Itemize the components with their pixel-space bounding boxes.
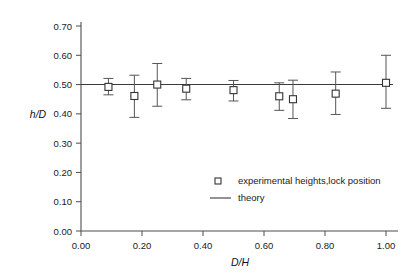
data-point	[381, 55, 391, 108]
data-point	[103, 78, 113, 94]
data-point	[181, 78, 191, 99]
x-tick-label: 0.80	[316, 240, 335, 251]
legend-label-theory: theory	[238, 192, 265, 203]
legend-label-experimental: experimental heights,lock position	[238, 175, 381, 186]
legend-marker-experimental	[215, 178, 221, 184]
legend: experimental heights,lock position theor…	[210, 175, 381, 203]
y-tick-label: 0.20	[54, 167, 73, 178]
y-tick-label: 0.30	[54, 138, 73, 149]
y-tick-label: 0.60	[54, 50, 73, 61]
y-axis-title: h/D	[30, 108, 47, 120]
data-point	[274, 83, 284, 111]
data-point-group	[103, 55, 391, 118]
figure-container: 0.000.100.200.300.400.500.600.70 0.000.2…	[0, 0, 410, 278]
y-tick-label: 0.40	[54, 108, 73, 119]
data-point	[229, 80, 239, 101]
x-axis-tick-group: 0.000.200.400.600.801.00	[72, 231, 396, 251]
x-tick-label: 0.00	[72, 240, 91, 251]
x-tick-label: 0.60	[255, 240, 274, 251]
x-tick-label: 1.00	[377, 240, 396, 251]
x-tick-label: 0.40	[194, 240, 213, 251]
data-point	[288, 80, 298, 118]
y-tick-label: 0.10	[54, 196, 73, 207]
y-tick-label: 0.00	[54, 226, 73, 237]
data-point	[152, 63, 162, 106]
data-point	[331, 72, 341, 114]
y-axis-tick-group: 0.000.100.200.300.400.500.600.70	[54, 21, 82, 237]
data-point	[129, 75, 139, 117]
scatter-plot: 0.000.100.200.300.400.500.600.70 0.000.2…	[0, 0, 410, 278]
y-tick-label: 0.50	[54, 79, 73, 90]
x-tick-label: 0.20	[133, 240, 152, 251]
y-tick-label: 0.70	[54, 21, 73, 32]
x-axis-title: D/H	[231, 256, 250, 268]
